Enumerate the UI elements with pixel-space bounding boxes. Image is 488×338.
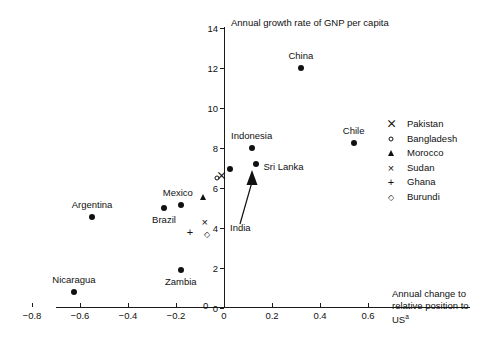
x-tick-label: 0.4 [313, 310, 326, 321]
diamond-marker-icon: ◇ [388, 191, 394, 202]
filled-circle-marker-icon [351, 140, 357, 146]
legend-item-label: Morocco [407, 146, 443, 161]
cross-x-marker-icon: × [388, 162, 394, 173]
scatter-chart: −0.8−0.6−0.4−0.200.20.40.6 02468101214 0… [0, 0, 488, 338]
data-point-label: Brazil [152, 214, 176, 225]
data-point-label: Mexico [163, 187, 193, 198]
y-tick-label: 8 [200, 143, 218, 154]
y-tick-mark [220, 228, 224, 229]
x-tick-mark [32, 303, 33, 307]
y-tick-mark [220, 68, 224, 69]
bowtie-marker-icon: ⨉ [388, 119, 395, 129]
y-tick-mark [220, 188, 224, 189]
open-circle-marker-icon [389, 136, 394, 141]
data-point-label: Chile [343, 125, 365, 136]
x-tick-mark [224, 303, 225, 307]
x-tick-label: −0.4 [119, 310, 138, 321]
x-tick-label: 0 [221, 310, 226, 321]
x-axis-title-text: Annual change to relative position to US [392, 288, 469, 325]
x-tick-label: −0.2 [167, 310, 186, 321]
cross-x-marker-icon: × [202, 217, 208, 228]
filled-circle-marker-icon [89, 214, 95, 220]
x-axis-title: Annual change to relative position to US… [392, 288, 488, 326]
y-axis-title-text: Annual growth rate of GNP per capita [231, 17, 389, 28]
y-tick-mark [220, 108, 224, 109]
origin-label: 0 [203, 300, 208, 311]
plus-marker-icon: + [187, 227, 193, 238]
data-point-label: Sri Lanka [263, 161, 303, 172]
x-tick-mark [272, 303, 273, 307]
data-point-label: Argentina [72, 199, 113, 210]
filled-circle-marker-icon [161, 205, 167, 211]
x-tick-label: 0.2 [265, 310, 278, 321]
legend-item-label: Bangladesh [407, 132, 457, 147]
y-tick-mark [220, 308, 224, 309]
filled-circle-marker-icon [178, 202, 184, 208]
y-tick-label: 2 [200, 263, 218, 274]
y-tick-label: 6 [200, 183, 218, 194]
triangle-marker-icon [200, 194, 206, 200]
x-tick-mark [128, 303, 129, 307]
india-callout-arrow [230, 162, 260, 228]
legend-item-label: Burundi [407, 190, 440, 205]
y-axis-title: Annual growth rate of GNP per capita [231, 17, 389, 29]
legend-item-label: Pakistan [407, 117, 443, 132]
x-axis-title-footnote-marker: a [405, 313, 409, 320]
x-tick-label: 0.6 [361, 310, 374, 321]
data-point-label: Indonesia [231, 130, 272, 141]
legend-item-label: Sudan [407, 161, 434, 176]
plus-marker-icon: + [388, 177, 394, 188]
data-point-label: Zambia [165, 276, 197, 287]
filled-circle-marker-icon [178, 267, 184, 273]
x-tick-mark [320, 303, 321, 307]
x-tick-mark [368, 303, 369, 307]
y-tick-mark [220, 268, 224, 269]
x-tick-mark [80, 303, 81, 307]
filled-circle-marker-icon [249, 145, 255, 151]
open-circle-marker-icon [214, 176, 219, 181]
y-tick-mark [220, 148, 224, 149]
filled-circle-marker-icon [71, 289, 77, 295]
y-tick-label: 12 [200, 63, 218, 74]
x-tick-mark [176, 303, 177, 307]
x-tick-label: −0.8 [23, 310, 42, 321]
y-tick-mark [220, 28, 224, 29]
data-point-label: China [288, 50, 313, 61]
x-tick-label: −0.6 [71, 310, 90, 321]
bowtie-marker-icon: ⨉ [218, 171, 225, 181]
data-point-label: Nicaragua [52, 274, 95, 285]
y-tick-label: 14 [200, 23, 218, 34]
filled-circle-marker-icon [298, 65, 304, 71]
legend-item-label: Ghana [407, 175, 436, 190]
diamond-marker-icon: ◇ [204, 229, 210, 240]
y-axis-line [224, 27, 225, 308]
triangle-marker-icon [388, 150, 394, 156]
y-tick-label: 10 [200, 103, 218, 114]
india-annotation-label: India [230, 222, 251, 233]
